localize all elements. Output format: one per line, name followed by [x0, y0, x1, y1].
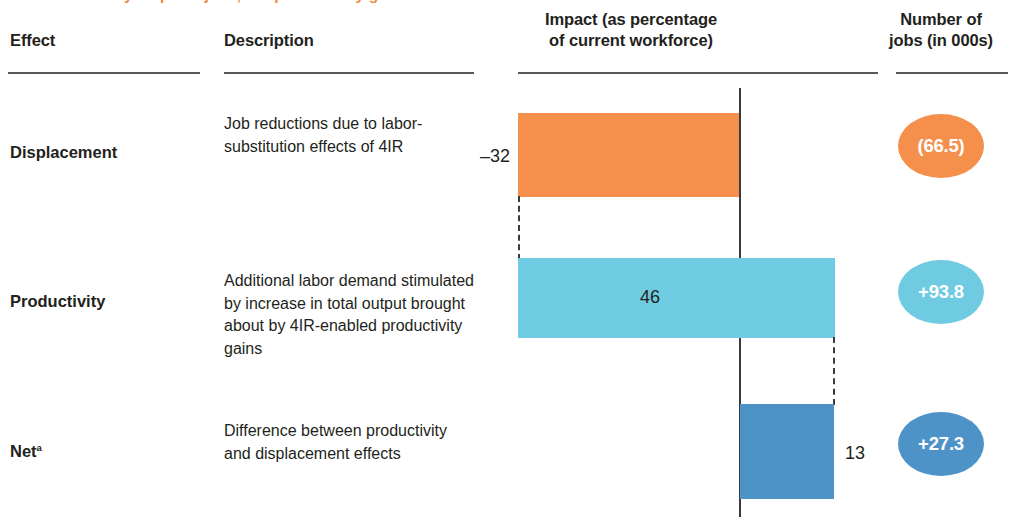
header-rule-number-of-jobs: [896, 72, 1008, 74]
jobs-badge-displacement: (66.5): [898, 114, 984, 178]
column-header-impact-line1: Impact (as percentage: [545, 10, 717, 28]
jobs-badge-productivity-text: +93.8: [918, 281, 964, 303]
jobs-badge-displacement-text: (66.5): [917, 135, 964, 157]
bar-productivity: [518, 258, 835, 338]
description-productivity: Additional labor demand stimulated by in…: [224, 270, 476, 360]
description-displacement: Job reductions due to labor-substitution…: [224, 113, 476, 158]
column-header-description: Description: [224, 30, 314, 51]
description-net: Difference between productivity and disp…: [224, 420, 476, 465]
footnote-marker-net: a: [37, 442, 42, 453]
jobs-badge-net: +27.3: [898, 412, 984, 476]
connector-line-displacement-to-productivity: [518, 196, 520, 260]
header-rule-effect: [8, 72, 200, 74]
exhibit-container: Automation may displace jobs, but produc…: [0, 0, 1013, 517]
effect-label-net: Neta: [10, 443, 42, 460]
header-rule-impact: [518, 72, 878, 74]
effect-label-net-text: Net: [10, 442, 37, 460]
column-header-number-line1: Number of: [900, 10, 982, 28]
impact-value-net: 13: [845, 444, 865, 462]
jobs-badge-productivity: +93.8: [898, 260, 984, 324]
bar-displacement: [518, 113, 739, 197]
jobs-badge-net-text: +27.3: [918, 433, 964, 455]
column-header-effect: Effect: [10, 30, 55, 51]
connector-line-productivity-to-net: [833, 337, 835, 405]
effect-label-productivity: Productivity: [10, 293, 105, 310]
effect-label-displacement: Displacement: [10, 144, 117, 161]
impact-value-displacement: –32: [474, 147, 510, 165]
column-header-impact: Impact (as percentage of current workfor…: [518, 9, 744, 51]
column-header-impact-line2: of current workforce): [549, 31, 713, 49]
exhibit-title-text: Automation may displace jobs, but produc…: [0, 0, 1013, 4]
bar-net: [740, 404, 834, 499]
column-header-number-of-jobs: Number of jobs (in 000s): [872, 9, 1010, 51]
header-rule-description: [224, 72, 474, 74]
impact-value-productivity: 46: [640, 288, 660, 306]
column-header-number-line2: jobs (in 000s): [889, 31, 993, 49]
clipped-exhibit-title: Automation may displace jobs, but produc…: [0, 0, 1013, 4]
